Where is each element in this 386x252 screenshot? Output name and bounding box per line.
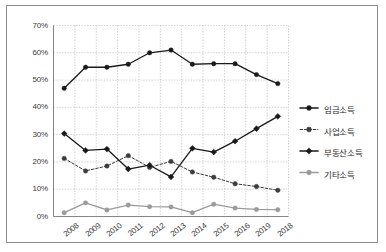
y-axis-tick-label: 30% — [22, 130, 48, 139]
y-axis-tick-label: 60% — [22, 48, 48, 57]
y-axis-tick-label: 20% — [22, 157, 48, 166]
plot-area-border — [54, 26, 289, 217]
legend-markers — [300, 106, 318, 175]
y-axis-tick-label: 70% — [22, 21, 48, 30]
chart-figure: 0%10%20%30%40%50%60%70% 2008200920102011… — [0, 0, 386, 252]
legend-item-label: 사업소득 — [324, 125, 355, 137]
y-axis-tick-label: 10% — [22, 184, 48, 193]
y-axis-tick-label: 40% — [22, 102, 48, 111]
y-axis-tick-label: 50% — [22, 75, 48, 84]
legend-item-label: 부동산소득 — [324, 146, 363, 158]
legend-item-label: 기타소득 — [324, 168, 355, 180]
gridlines — [54, 26, 289, 217]
y-axis-tick-label: 0% — [22, 212, 48, 221]
series-layer — [61, 48, 280, 215]
legend-item-label: 임금소득 — [324, 103, 355, 115]
